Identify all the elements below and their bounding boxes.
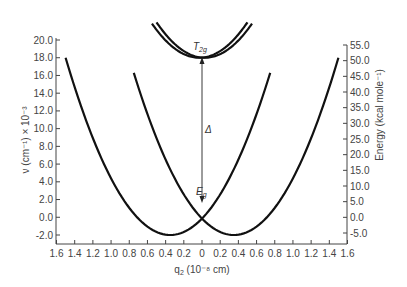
x-tick-label: 0.8 [122, 248, 136, 259]
y-left-tick-label: 4.0 [39, 176, 53, 187]
energy-surface-chart: 20.018.016.014.012.010.08.06.04.02.00.0-… [0, 0, 407, 287]
x-tick-label: 1.2 [304, 248, 318, 259]
y-left-tick-label: 20.0 [34, 35, 54, 46]
x-tick-label: 1.6 [341, 248, 355, 259]
y-right-tick-label: 20.0 [350, 149, 370, 160]
x-tick-label: 0.8 [268, 248, 282, 259]
x-tick-label: 0.6 [250, 248, 264, 259]
x-tick-label: 0.6 [140, 248, 154, 259]
x-tick-label: 1.0 [104, 248, 118, 259]
y-left-tick-label: 0.0 [39, 212, 53, 223]
y-right-tick-label: 40.0 [350, 87, 370, 98]
y-left-tick-label: 10.0 [34, 123, 54, 134]
y-left-tick-label: 6.0 [39, 159, 53, 170]
y-right-tick-label: -5.0 [350, 228, 368, 239]
x-tick-label: 1.0 [286, 248, 300, 259]
y-left-tick-label: 16.0 [34, 70, 54, 81]
x-tick-label: 0.4 [159, 248, 173, 259]
x-tick-label: 1.6 [50, 248, 64, 259]
x-axis-title: q2 (10⁻⁸ cm) [174, 264, 229, 276]
y-right-tick-label: 25.0 [350, 134, 370, 145]
y-right-tick-label: 45.0 [350, 71, 370, 82]
y-axis-right-title: Energy (kcal mole⁻¹) [374, 69, 385, 161]
y-right-tick-label: 0.0 [350, 212, 364, 223]
y-left-tick-label: -2.0 [36, 230, 54, 241]
potential-curve-1 [134, 58, 339, 235]
x-tick-label: 1.4 [68, 248, 82, 259]
y-right-tick-label: 50.0 [350, 55, 370, 66]
y-right-tick-label: 15.0 [350, 165, 370, 176]
y-right-tick-label: 10.0 [350, 181, 370, 192]
x-tick-label: 0.4 [231, 248, 245, 259]
x-tick-label: 1.2 [86, 248, 100, 259]
potential-curve-0 [66, 58, 271, 235]
y-right-tick-label: 55.0 [350, 40, 370, 51]
y-left-tick-label: 12.0 [34, 105, 54, 116]
x-tick-label: 1.4 [322, 248, 336, 259]
x-tick-label: 0.2 [177, 248, 191, 259]
y-right-tick-label: 30.0 [350, 118, 370, 129]
t2g-label: T2g [193, 41, 207, 54]
y-left-tick-label: 2.0 [39, 194, 53, 205]
y-left-tick-label: 14.0 [34, 88, 54, 99]
y-axis-left-title: ν (cm⁻¹) × 10⁻³ [20, 106, 31, 174]
x-tick-label: 0.2 [213, 248, 227, 259]
y-right-tick-label: 35.0 [350, 102, 370, 113]
y-right-tick-label: 5.0 [350, 196, 364, 207]
delta-label: Δ [204, 124, 212, 135]
y-left-tick-label: 8.0 [39, 141, 53, 152]
x-tick-label: 0 [199, 248, 205, 259]
y-left-tick-label: 18.0 [34, 52, 54, 63]
